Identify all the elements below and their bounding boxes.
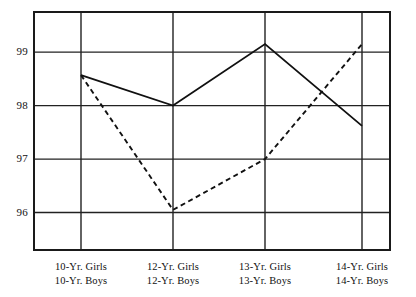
series-line-girls <box>81 44 362 126</box>
y-axis-tick-label: 99 <box>0 46 28 57</box>
plot-area <box>0 0 416 297</box>
series-line-boys <box>81 44 362 210</box>
line-chart: 99 98 97 96 10-Yr. Girls 10-Yr. Boys 12-… <box>0 0 416 297</box>
y-axis-tick-label: 97 <box>0 153 28 164</box>
vertical-gridlines <box>81 12 362 250</box>
y-axis-tick-label: 96 <box>0 207 28 218</box>
y-axis-tick-label: 98 <box>0 100 28 111</box>
plot-frame <box>34 12 390 250</box>
